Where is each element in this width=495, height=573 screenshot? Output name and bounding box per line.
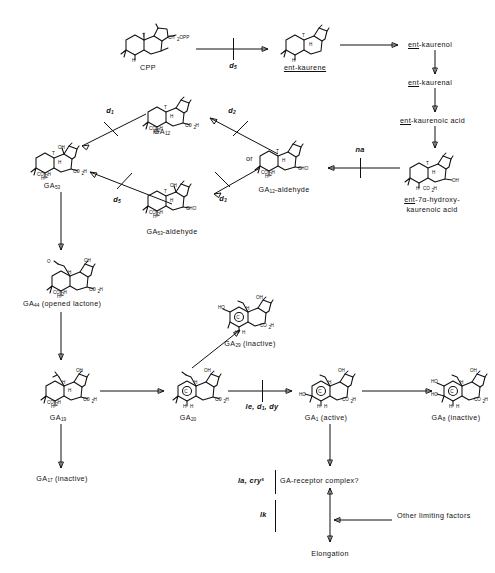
node-label-ent-kaurenol: ent-kaurenol	[408, 41, 452, 49]
svg-text:H: H	[62, 380, 65, 385]
svg-text:OH: OH	[170, 183, 177, 188]
arrow-ga19-to-ga17	[56, 424, 66, 472]
svg-text:OH: OH	[470, 368, 477, 373]
arrow-ga19-to-ga20	[100, 386, 172, 396]
svg-text:H: H	[100, 287, 103, 292]
node-label-ent-7a-hydroxy-line2: kaurenoic acid	[406, 206, 457, 214]
node-label-cpp: CPP	[140, 64, 156, 72]
svg-text:H: H	[68, 270, 71, 275]
arrow-ga1-to-ga8	[362, 386, 440, 396]
svg-text:HO: HO	[299, 392, 306, 397]
svg-text:T: T	[276, 149, 279, 154]
svg-text:CO: CO	[185, 123, 192, 128]
svg-text:H: H	[434, 186, 437, 191]
svg-text:HO: HO	[431, 379, 438, 384]
node-label-ga8: GA8 (inactive)	[432, 414, 481, 422]
arrow-kaurenoic-to-hydroxy	[430, 126, 440, 152]
block-bar-d5-kaurene	[233, 38, 234, 60]
svg-text:HO: HO	[218, 305, 225, 310]
svg-text:H: H	[416, 186, 419, 191]
arrow-cpp-to-kaurene	[196, 44, 276, 54]
node-label-ga1: GA1 (active)	[305, 414, 347, 422]
structure-ga20: C OH H H CO2H H	[168, 366, 226, 412]
svg-text:CO: CO	[89, 287, 96, 292]
svg-text:OH: OH	[256, 295, 263, 300]
svg-text:T: T	[164, 189, 167, 194]
block-bar-lk	[275, 500, 276, 532]
node-label-ga17: GA17 (inactive)	[36, 475, 87, 483]
svg-text:H: H	[64, 290, 67, 295]
svg-text:T: T	[142, 33, 145, 38]
svg-text:H: H	[353, 397, 356, 402]
svg-text:HO: HO	[431, 392, 438, 397]
svg-text:CH: CH	[168, 35, 175, 40]
svg-text:H: H	[328, 380, 331, 385]
node-label-ga53-aldehyde: GA53-aldehyde	[146, 228, 197, 236]
svg-text:CHO: CHO	[298, 166, 309, 171]
svg-text:H: H	[94, 397, 97, 402]
structure-ga1: C HO OH H H CO2H H	[298, 366, 358, 412]
svg-text:CHO: CHO	[186, 206, 197, 211]
svg-text:T: T	[426, 161, 429, 166]
svg-text:H: H	[48, 172, 51, 177]
node-label-ga12: GA12	[154, 128, 170, 136]
node-label-ent-kaurenoic-acid: ent-kaurenoic acid	[400, 117, 465, 125]
node-label-ent-kaurene: ent-kaurene	[284, 64, 326, 72]
svg-text:H: H	[456, 404, 459, 409]
svg-text:CO: CO	[83, 397, 90, 402]
svg-text:OH: OH	[84, 258, 91, 263]
structure-ga29: C HO OH H H CO2H H	[218, 294, 276, 336]
arrow-hydroxy-to-ga12-aldehyde	[322, 163, 402, 173]
arrow-ga20-to-ga1	[228, 386, 300, 396]
svg-text:T: T	[52, 151, 55, 156]
arrow-kaurenol-to-kaurenal	[430, 50, 440, 78]
block-bar-na	[360, 158, 361, 178]
svg-text:H: H	[170, 198, 173, 203]
mutant-label-lk: lk	[260, 511, 267, 520]
svg-text:CO: CO	[47, 400, 54, 405]
svg-text:C: C	[318, 389, 322, 394]
structure-ent-7a-hydroxy-kaurenoic-acid: H CO2H T H OH	[402, 152, 460, 192]
svg-text:CO: CO	[37, 172, 44, 177]
svg-text:H: H	[235, 330, 238, 335]
svg-text:T: T	[302, 33, 305, 38]
svg-text:H: H	[246, 306, 249, 311]
mutant-label-d2-ga12: d2	[228, 107, 236, 116]
arrow-kaurene-to-kaurenol	[340, 40, 406, 50]
svg-text:H: H	[194, 380, 197, 385]
svg-text:CO: CO	[423, 186, 430, 191]
mutant-label-d1-ga12: d1	[106, 107, 114, 116]
svg-text:CO: CO	[53, 290, 60, 295]
block-bar-d5-ga53ald	[112, 170, 138, 196]
svg-text:H: H	[58, 400, 61, 405]
svg-text:H: H	[170, 114, 173, 119]
svg-text:H: H	[432, 170, 435, 175]
mutant-label-d5-kaurene: d5	[229, 62, 237, 71]
svg-text:OH: OH	[76, 368, 83, 373]
block-bar-d1-ga12	[100, 118, 124, 142]
svg-text:H: H	[292, 58, 295, 63]
svg-text:C: C	[236, 315, 240, 320]
svg-text:OH: OH	[452, 178, 459, 183]
pathway-diagram-canvas: CH2OPP H T CPP d5 H T H ent-kaurene e	[0, 0, 495, 573]
arrow-other-factors-to-elongation	[328, 515, 398, 525]
mutant-label-le-d1-dy: le, d1, dy	[246, 403, 279, 412]
svg-text:H: H	[485, 397, 488, 402]
svg-text:H: H	[183, 404, 186, 409]
block-bar-la-crys	[275, 470, 276, 494]
node-label-ga12-aldehyde: GA12-aldehyde	[258, 186, 309, 194]
svg-text:H: H	[317, 404, 320, 409]
svg-text:CO: CO	[149, 210, 156, 215]
arrow-kaurenal-to-kaurenoic	[430, 88, 440, 116]
structure-ga53: OH H CO2H T H CO2H	[28, 140, 88, 184]
svg-text:T: T	[164, 105, 167, 110]
structure-ga19: OH H CO2H CO2H H H	[36, 366, 98, 412]
svg-text:H: H	[449, 404, 452, 409]
structure-cpp: CH2OPP H T	[118, 24, 188, 62]
structure-ga8: C HO HO OH H H CO2H H	[430, 366, 490, 412]
node-label-ga20: GA20	[180, 414, 196, 422]
mutant-label-na: na	[355, 146, 364, 155]
mutant-label-d3-ga12ald: d3	[219, 195, 227, 204]
block-bar-d2-ga12	[228, 118, 254, 142]
svg-text:OH: OH	[338, 368, 345, 373]
